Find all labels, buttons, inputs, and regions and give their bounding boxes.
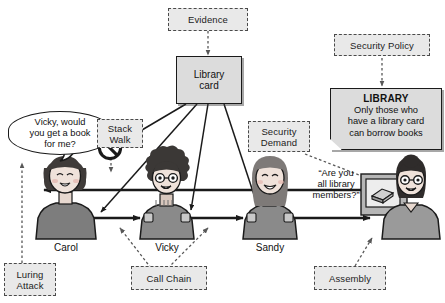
note-fold-corner xyxy=(330,139,342,150)
annotation-security-demand-line2: Demand xyxy=(261,137,298,148)
annotation-call-chain-label: Call Chain xyxy=(147,273,192,284)
library-note-line2: have a library card xyxy=(348,116,424,126)
figure-sandy xyxy=(243,156,297,239)
entity-library-policy-note[interactable]: LIBRARY Only those who have a library ca… xyxy=(330,88,442,150)
annotation-assembly[interactable]: Assembly xyxy=(314,266,386,290)
figure-carol xyxy=(36,156,96,239)
library-note-line3: can borrow books xyxy=(349,128,422,138)
librarian-quote-line2: all library xyxy=(303,179,369,190)
annotation-stack-walk-line1: Stack xyxy=(108,123,132,134)
diagram-canvas: Evidence Security Policy Library card LI… xyxy=(0,0,445,303)
figure-librarian xyxy=(361,155,440,240)
carol-speech-line2: you get a book xyxy=(30,128,91,139)
actor-name-sandy: Sandy xyxy=(246,242,294,253)
annotation-evidence[interactable]: Evidence xyxy=(168,8,248,31)
annotation-security-policy[interactable]: Security Policy xyxy=(334,34,430,56)
figure-vicky xyxy=(140,145,194,239)
annotation-evidence-label: Evidence xyxy=(188,14,228,25)
annotation-call-chain[interactable]: Call Chain xyxy=(131,266,207,290)
library-note-title: LIBRARY xyxy=(334,93,438,104)
entity-library-card[interactable]: Library card xyxy=(176,56,242,104)
carol-speech-line3: for me? xyxy=(44,139,76,150)
annotation-luring-attack-line1: Luring xyxy=(16,269,43,280)
annotation-stack-walk[interactable]: Stack Walk xyxy=(97,119,143,148)
annotation-security-demand[interactable]: Security Demand xyxy=(248,121,310,152)
library-card-line2: card xyxy=(199,80,218,92)
librarian-quote-line1: “Are you xyxy=(303,168,369,179)
actor-name-carol: Carol xyxy=(42,242,90,253)
annotation-security-demand-line1: Security xyxy=(261,126,296,137)
annotation-luring-attack-line2: Attack xyxy=(17,280,44,291)
library-card-line1: Library xyxy=(194,69,225,81)
annotation-assembly-label: Assembly xyxy=(329,273,371,284)
library-note-line1: Only those who xyxy=(354,105,418,115)
librarian-quote-line3: members?” xyxy=(303,190,369,201)
annotation-luring-attack[interactable]: Luring Attack xyxy=(4,263,56,296)
annotation-stack-walk-line2: Walk xyxy=(109,134,130,145)
actor-name-vicky: Vicky xyxy=(143,242,191,253)
carol-speech-line1: Vicky, would xyxy=(35,117,86,128)
speech-librarian-quote: “Are you all library members?” xyxy=(303,168,369,202)
annotation-security-policy-label: Security Policy xyxy=(350,40,414,51)
